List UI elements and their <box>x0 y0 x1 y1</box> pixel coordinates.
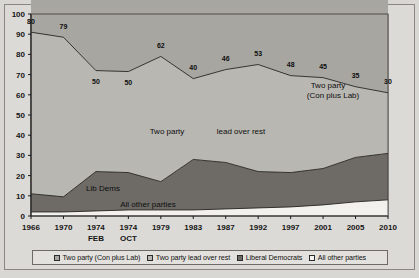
data-label: 30 <box>384 78 392 85</box>
y-tick-label: 30 <box>16 151 25 160</box>
data-label: 46 <box>222 55 230 62</box>
x-axis-tick-labels: 196619701974FEB1974OCT197919831987199219… <box>22 216 397 243</box>
x-tick-label-second-line: FEB <box>88 234 104 243</box>
legend-item[interactable]: All other parties <box>309 253 366 262</box>
legend-swatch-icon <box>237 255 243 261</box>
annotation-two-party-con-lab-line2: (Con plus Lab) <box>307 91 360 100</box>
data-label: 48 <box>287 61 295 68</box>
x-tick-label: 1974 <box>87 223 105 232</box>
x-tick-label: 1983 <box>184 223 202 232</box>
annotation-all-other-parties: All other parties <box>120 200 176 209</box>
x-tick-label: 1970 <box>55 223 73 232</box>
annotation-two-party-con-lab: Two party <box>311 81 346 90</box>
x-tick-label: 1974 <box>119 223 137 232</box>
y-tick-label: 90 <box>16 30 25 39</box>
data-label: 40 <box>189 64 197 71</box>
legend-item[interactable]: Two party (Con plus Lab) <box>54 253 140 262</box>
x-tick-label: 1966 <box>22 223 40 232</box>
legend-label: Liberal Democrats <box>246 253 303 262</box>
legend-swatch-icon <box>54 255 60 261</box>
y-axis-tick-labels: 0102030405060708090100 <box>12 10 31 221</box>
x-tick-label: 1992 <box>249 223 267 232</box>
legend-item[interactable]: Two party lead over rest <box>147 253 230 262</box>
x-tick-label: 2001 <box>314 223 332 232</box>
x-tick-label: 1997 <box>282 223 300 232</box>
y-tick-label: 20 <box>16 172 25 181</box>
y-tick-label: 10 <box>16 192 25 201</box>
data-label: 53 <box>254 50 262 57</box>
annotation-lib-dems: Lib Dems <box>86 184 120 193</box>
area-chart-svg: 0102030405060708090100 196619701974FEB19… <box>0 0 419 278</box>
legend-swatch-icon <box>147 255 153 261</box>
stacked-areas <box>31 0 388 216</box>
y-tick-label: 40 <box>16 131 25 140</box>
y-tick-label: 70 <box>16 71 25 80</box>
chart-page: 0102030405060708090100 196619701974FEB19… <box>0 0 419 278</box>
data-label: 79 <box>60 23 68 30</box>
legend-swatch-icon <box>309 255 315 261</box>
y-tick-label: 0 <box>21 212 26 221</box>
legend-item[interactable]: Liberal Democrats <box>237 253 302 262</box>
annotation-two-party-lead-right: lead over rest <box>217 127 266 136</box>
data-label: 62 <box>157 42 165 49</box>
legend-label: Two party lead over rest <box>156 253 230 262</box>
x-tick-label: 1979 <box>152 223 170 232</box>
data-label: 45 <box>319 63 327 70</box>
annotation-two-party-lead-left: Two party <box>150 127 185 136</box>
chart-canvas: 0102030405060708090100 196619701974FEB19… <box>0 0 419 278</box>
data-label: 35 <box>352 72 360 79</box>
y-tick-label: 100 <box>12 10 26 19</box>
x-tick-label-second-line: OCT <box>120 234 137 243</box>
legend-label: Two party (Con plus Lab) <box>62 253 140 262</box>
data-label: 50 <box>124 79 132 86</box>
data-label: 80 <box>27 18 35 25</box>
x-tick-label: 2005 <box>347 223 365 232</box>
legend-label: All other parties <box>318 253 366 262</box>
y-tick-label: 50 <box>16 111 25 120</box>
y-tick-label: 60 <box>16 91 25 100</box>
data-label: 50 <box>92 78 100 85</box>
x-tick-label: 2010 <box>379 223 397 232</box>
x-tick-label: 1987 <box>217 223 235 232</box>
chart-legend: Two party (Con plus Lab)Two party lead o… <box>32 250 388 265</box>
y-tick-label: 80 <box>16 50 25 59</box>
